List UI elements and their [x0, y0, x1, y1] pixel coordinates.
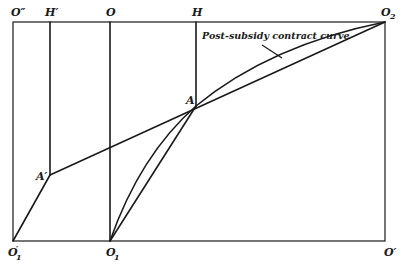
label-o-double-prime: O″: [11, 6, 26, 19]
label-o-prime: O′: [384, 246, 397, 259]
label-h: H: [191, 6, 203, 19]
label-o: O: [106, 6, 116, 19]
o1-to-a-line: [110, 106, 196, 241]
label-o2-subscript: 2: [389, 11, 396, 21]
curve-label-leader-line: [262, 45, 282, 58]
label-o1-prime: O ′ 1: [8, 243, 22, 262]
label-a-prime: A′: [35, 170, 48, 183]
label-o1: O 1: [106, 246, 120, 262]
post-subsidy-contract-curve-label: Post-subsidy contract curve: [201, 30, 350, 41]
label-a: A: [185, 94, 195, 107]
label-o2: O 2: [381, 6, 396, 21]
outer-box: [13, 22, 385, 241]
o1-prime-to-a-prime-line: [13, 175, 50, 241]
label-h-prime: H′: [44, 6, 58, 19]
label-o1-prime-subscript: 1: [16, 252, 22, 262]
label-o1-subscript: 1: [114, 252, 120, 262]
edgeworth-box-diagram: Post-subsidy contract curve O″ H′ O H O …: [0, 0, 402, 264]
a-prime-to-o2-line: [50, 22, 385, 175]
